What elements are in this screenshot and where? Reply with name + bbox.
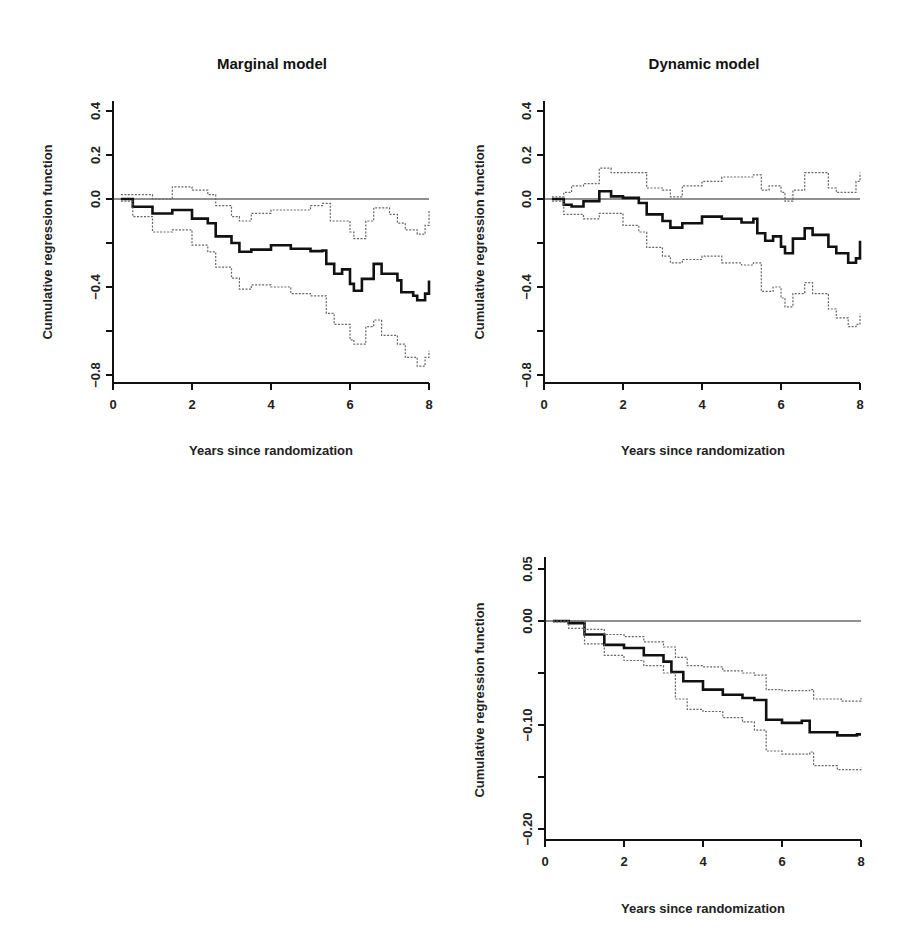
- y-tick-label: 0.2: [519, 146, 534, 164]
- x-tick-label: 8: [856, 397, 863, 412]
- y-tick-label: 0.2: [88, 146, 103, 164]
- x-axis-label: Years since randomization: [189, 443, 353, 458]
- y-tick-label: −0.8: [88, 362, 103, 388]
- lower-band-line: [552, 201, 860, 326]
- panel-dynamic-model: Dynamic model Years since randomization …: [472, 55, 864, 458]
- y-tick-label: −0.20: [520, 813, 535, 846]
- x-axis-label: Years since randomization: [621, 901, 785, 916]
- x-tick-label: 8: [425, 397, 432, 412]
- x-tick-label: 2: [188, 397, 195, 412]
- y-tick-label: −0.8: [519, 362, 534, 388]
- y-tick-label: 0.4: [88, 101, 103, 120]
- panel-marginal-model: Marginal model Years since randomization…: [40, 55, 433, 458]
- y-axis-label: Cumulative regression function: [472, 602, 487, 797]
- figure: Marginal model Years since randomization…: [0, 0, 914, 947]
- x-tick-label: 4: [698, 397, 706, 412]
- chart-title: Marginal model: [217, 55, 327, 72]
- estimate-line: [553, 621, 861, 735]
- x-tick-label: 4: [267, 397, 275, 412]
- x-axis-label: Years since randomization: [621, 443, 785, 458]
- y-tick-label: 0.4: [519, 101, 534, 120]
- y-tick-label: 0.00: [520, 608, 535, 633]
- estimate-line: [552, 191, 860, 262]
- y-tick-label: 0.0: [88, 190, 103, 208]
- y-tick-label: −0.10: [520, 709, 535, 742]
- x-tick-label: 2: [620, 854, 627, 869]
- y-axis-label: Cumulative regression function: [472, 144, 487, 339]
- x-tick-label: 6: [777, 397, 784, 412]
- estimate-line: [121, 199, 429, 300]
- y-tick-label: 0.05: [520, 556, 535, 581]
- x-tick-label: 0: [109, 397, 116, 412]
- x-tick-label: 4: [699, 854, 707, 869]
- panel-third: Years since randomization Cumulative reg…: [472, 556, 865, 916]
- x-tick-label: 0: [541, 854, 548, 869]
- lower-band-line: [553, 622, 861, 770]
- lower-band-line: [121, 201, 429, 366]
- x-tick-label: 2: [619, 397, 626, 412]
- y-axis-label: Cumulative regression function: [40, 144, 55, 339]
- x-tick-label: 8: [857, 854, 864, 869]
- chart-title: Dynamic model: [649, 55, 760, 72]
- x-tick-label: 6: [346, 397, 353, 412]
- y-tick-label: −0.4: [519, 273, 534, 299]
- y-tick-label: 0.0: [519, 190, 534, 208]
- x-tick-label: 0: [540, 397, 547, 412]
- y-tick-label: −0.4: [88, 273, 103, 299]
- x-tick-label: 6: [778, 854, 785, 869]
